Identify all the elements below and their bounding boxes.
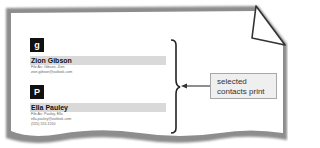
contact-initial-badge: P — [30, 85, 44, 99]
contact-card-ella: P Ella Pauley File As:Pauley, Ella ella.… — [30, 85, 166, 127]
contact-name: Zion Gibson — [30, 56, 166, 65]
contact-card-zion: g Zion Gibson File As:Gibson, Zion zion.… — [30, 38, 166, 75]
callout-line-1: selected — [217, 77, 276, 87]
callout-line-2: contacts print — [217, 87, 276, 97]
callout-box: selected contacts print — [210, 73, 277, 99]
contact-phone: (555) 555-1550 — [30, 122, 166, 127]
contact-email: zion.gibson@outlook.com — [30, 70, 166, 75]
file-as-value: Pauley, Ella — [44, 112, 63, 116]
contact-name: Ella Pauley — [30, 103, 166, 112]
folded-corner — [252, 6, 285, 45]
file-as-value: Gibson, Zion — [44, 65, 64, 69]
contact-initial-badge: g — [30, 38, 44, 52]
